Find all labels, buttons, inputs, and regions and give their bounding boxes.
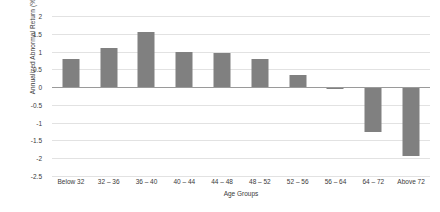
bar bbox=[176, 52, 193, 88]
bar-slot bbox=[354, 16, 392, 176]
bar bbox=[365, 87, 382, 131]
bar-slot bbox=[203, 16, 241, 176]
bar-chart: Annualized Abnormal Return (%) 21.510.50… bbox=[0, 0, 440, 212]
x-tick-label: 44 – 48 bbox=[211, 178, 233, 185]
plot-area bbox=[52, 16, 430, 176]
bar bbox=[251, 59, 268, 87]
bar-slot bbox=[317, 16, 355, 176]
bar bbox=[138, 32, 155, 87]
bar bbox=[289, 75, 306, 87]
bar bbox=[100, 48, 117, 87]
y-tick-label: 0 bbox=[38, 84, 42, 91]
y-tick-label: 2 bbox=[38, 13, 42, 20]
bar bbox=[62, 59, 79, 87]
x-tick-label: 32 – 36 bbox=[98, 178, 120, 185]
y-tick-label: 0.5 bbox=[33, 66, 42, 73]
x-tick-label: 48 – 52 bbox=[249, 178, 271, 185]
x-tick-label: 40 – 44 bbox=[173, 178, 195, 185]
x-tick-label: 52 – 56 bbox=[287, 178, 309, 185]
y-axis-tick-labels: 21.510.50-0.5-1-1.5-2-2.5 bbox=[0, 16, 46, 176]
y-tick-label: -0.5 bbox=[31, 101, 42, 108]
gridline bbox=[52, 176, 430, 177]
y-tick-label: 1.5 bbox=[33, 30, 42, 37]
bar-slot bbox=[52, 16, 90, 176]
y-tick-label: 1 bbox=[38, 48, 42, 55]
y-tick-label: -2.5 bbox=[31, 173, 42, 180]
x-tick-label: 64 – 72 bbox=[362, 178, 384, 185]
x-tick-label: Below 32 bbox=[58, 178, 85, 185]
y-tick-label: -1.5 bbox=[31, 137, 42, 144]
bar-slot bbox=[165, 16, 203, 176]
bar-slot bbox=[128, 16, 166, 176]
bar-slot bbox=[90, 16, 128, 176]
x-tick-label: 56 – 64 bbox=[325, 178, 347, 185]
y-tick-label: -1 bbox=[36, 119, 42, 126]
bar-slot bbox=[392, 16, 430, 176]
zero-axis-line bbox=[52, 87, 430, 88]
bar-slot bbox=[279, 16, 317, 176]
bar-slot bbox=[241, 16, 279, 176]
x-axis-title: Age Groups bbox=[52, 190, 430, 197]
x-tick-label: Above 72 bbox=[397, 178, 424, 185]
bar bbox=[214, 53, 231, 87]
x-tick-label: 36 – 40 bbox=[136, 178, 158, 185]
y-tick-label: -2 bbox=[36, 155, 42, 162]
bar bbox=[403, 87, 420, 156]
